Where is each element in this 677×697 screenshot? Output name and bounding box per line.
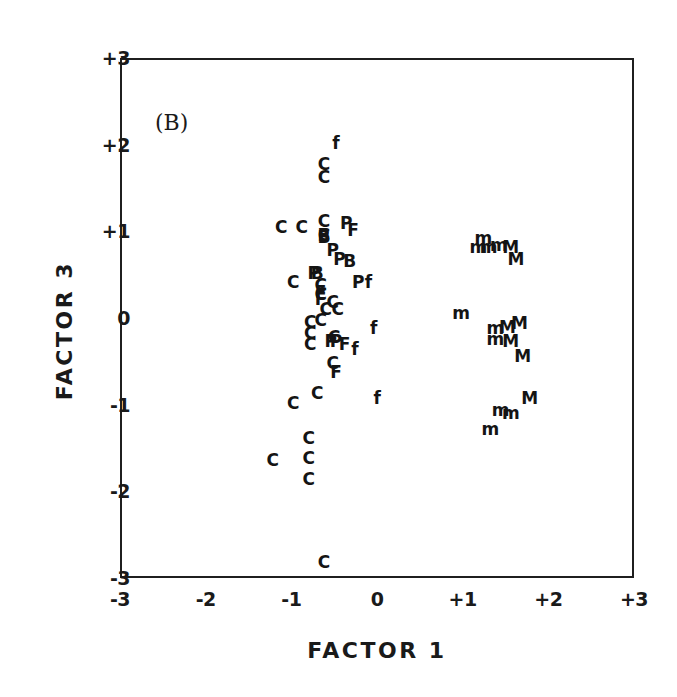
data-point-P: P — [352, 273, 364, 290]
y-axis-title: FACTOR 3 — [52, 201, 77, 461]
scatter-plot-figure: (B) CCCCCCCCCCCCCCCCCCCCCCCCCPPPPPPPBBBB… — [0, 0, 677, 697]
y-tick-label: -2 — [110, 480, 130, 502]
data-point-C: C — [302, 429, 314, 446]
data-point-C: C — [314, 311, 326, 328]
data-point-f: f — [370, 320, 377, 337]
data-point-m: m — [481, 420, 498, 437]
data-point-m: m — [502, 405, 519, 422]
data-point-C: C — [302, 471, 314, 488]
data-point-f: f — [365, 273, 372, 290]
y-tick-label: +3 — [102, 47, 130, 69]
data-point-C: C — [302, 450, 314, 467]
data-point-B: B — [318, 226, 331, 243]
data-points-layer: CCCCCCCCCCCCCCCCCCCCCCCCCPPPPPPPBBBBFFFF… — [120, 58, 634, 578]
x-tick-label: -1 — [281, 588, 301, 610]
data-point-m: m — [452, 304, 469, 321]
data-point-B: B — [311, 264, 324, 281]
data-point-F: F — [347, 221, 358, 238]
data-point-C: C — [318, 168, 330, 185]
y-tick-label: 0 — [117, 307, 130, 329]
x-tick-label: +3 — [620, 588, 648, 610]
data-point-C: C — [275, 219, 287, 236]
data-point-C: C — [318, 554, 330, 571]
data-point-F: F — [330, 363, 341, 380]
data-point-f: f — [332, 134, 339, 151]
x-tick-label: +2 — [534, 588, 562, 610]
data-point-C: C — [296, 219, 308, 236]
y-tick-label: +2 — [102, 134, 130, 156]
data-point-C: C — [304, 336, 316, 353]
data-point-F: F — [315, 290, 326, 307]
x-tick-label: +1 — [449, 588, 477, 610]
data-point-C: C — [287, 394, 299, 411]
y-tick-label: -3 — [110, 567, 130, 589]
x-tick-label: 0 — [371, 588, 384, 610]
x-tick-label: -3 — [110, 588, 130, 610]
y-tick-label: +1 — [102, 220, 130, 242]
data-point-M: M — [507, 251, 524, 268]
data-point-B: B — [343, 252, 356, 269]
x-axis-title: FACTOR 1 — [120, 638, 634, 663]
data-point-f: f — [351, 341, 358, 358]
data-point-C: C — [287, 273, 299, 290]
data-point-f: f — [373, 389, 380, 406]
data-point-C: C — [311, 384, 323, 401]
data-point-M: M — [514, 348, 531, 365]
y-tick-label: -1 — [110, 394, 130, 416]
data-point-F: F — [339, 336, 350, 353]
data-point-C: C — [266, 452, 278, 469]
x-tick-label: -2 — [196, 588, 216, 610]
data-point-M: M — [521, 389, 538, 406]
data-point-C: C — [332, 301, 344, 318]
